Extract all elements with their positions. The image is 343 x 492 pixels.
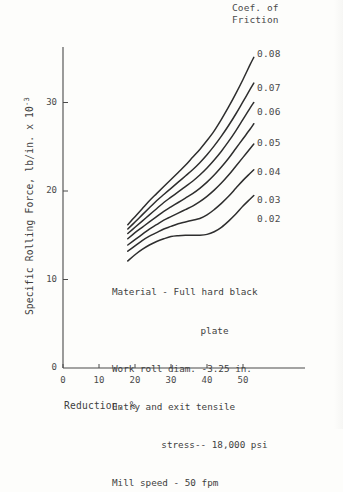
curve-label-0-02: 0.02 (257, 213, 281, 224)
curve-0-08 (128, 57, 254, 224)
y-axis-label-exponent: -3 (23, 97, 31, 106)
y-tick-label: 0 (33, 362, 57, 372)
curve-label-0-08: 0.08 (257, 48, 281, 59)
annotation-line-2: plate (112, 325, 317, 338)
curve-label-0-07: 0.07 (257, 82, 281, 93)
y-tick-label: 30 (33, 97, 57, 107)
y-axis-label: Specific Rolling Force, lb/in. x 10-3 (23, 91, 35, 321)
curve-0-02 (128, 195, 254, 260)
curve-label-0-03: 0.03 (257, 194, 281, 205)
annotation-block: Material - Full hard black plate Work ro… (112, 261, 317, 492)
curve-label-0-06: 0.06 (257, 106, 281, 117)
annotation-line-3: Work roll diam. -3.25 in. (112, 363, 317, 376)
curve-0-05 (128, 124, 254, 239)
x-tick-label: 10 (87, 375, 111, 385)
scan-edge-artifact (334, 0, 343, 429)
data-curves (128, 57, 254, 261)
annotation-line-4: Entry and exit tensile (112, 401, 317, 414)
x-tick-label: 0 (51, 375, 75, 385)
annotation-line-1: Material - Full hard black (112, 286, 317, 299)
annotation-line-5: stress-- 18,000 psi (112, 439, 317, 452)
curve-label-0-05: 0.05 (257, 137, 281, 148)
y-axis-label-text: Specific Rolling Force, lb/in. x 10 (24, 106, 35, 315)
y-tick-label: 10 (33, 274, 57, 284)
curve-label-0-04: 0.04 (257, 166, 281, 177)
annotation-line-6: Mill speed - 50 fpm (112, 477, 317, 490)
y-tick-label: 20 (33, 185, 57, 195)
